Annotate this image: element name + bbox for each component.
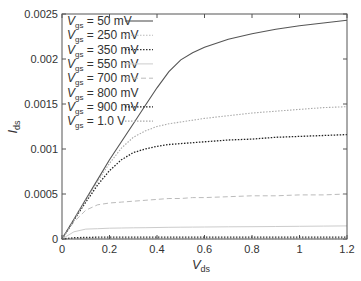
y-tick-label: 0.0015: [24, 98, 58, 110]
x-tick-label: 0.8: [244, 243, 259, 255]
legend-label: Vgs = 1.0 V: [67, 114, 125, 130]
x-tick-label: 1.2: [339, 243, 354, 255]
curve-vgs-700-mv: [62, 194, 347, 239]
x-label-text: Vds: [192, 257, 211, 274]
x-tick-label: 0: [59, 243, 65, 255]
x-tick-label: 1: [296, 243, 302, 255]
chart: 00.20.40.60.811.200.00050.0010.00150.002…: [0, 0, 361, 281]
x-tick-label: 0.6: [197, 243, 212, 255]
curve-vgs-900-mv: [62, 135, 347, 239]
y-axis-label: Ids: [5, 120, 22, 134]
x-axis-label: Vds: [192, 257, 211, 274]
y-tick-label: 0.0025: [24, 8, 58, 20]
y-tick-label: 0.0005: [24, 188, 58, 200]
x-tick-label: 0.2: [102, 243, 117, 255]
y-label-text: Ids: [5, 120, 22, 134]
x-tick-label: 0.4: [149, 243, 164, 255]
y-tick-label: 0.002: [30, 53, 58, 65]
y-tick-label: 0.001: [30, 143, 58, 155]
y-tick-label: 0: [52, 233, 58, 245]
